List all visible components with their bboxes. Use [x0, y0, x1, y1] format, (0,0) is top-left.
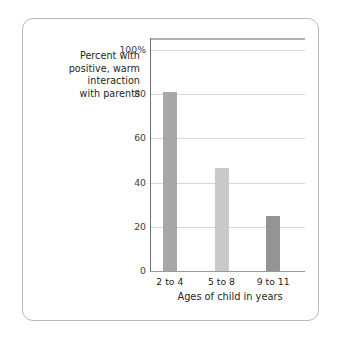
- y-axis-tick-labels: 100% 80 60 40 20 0: [108, 38, 146, 278]
- y-tick-label-100: 100%: [119, 45, 146, 55]
- y-tick-label-20: 20: [134, 222, 146, 232]
- y-tick-label-40: 40: [134, 178, 146, 188]
- x-axis-title: Ages of child in years: [140, 291, 320, 302]
- bar-5-to-8[interactable]: [215, 168, 229, 271]
- bar-9-to-11[interactable]: [266, 216, 280, 271]
- y-axis-spine: [150, 38, 151, 272]
- x-tick-label-9-to-11: 9 to 11: [247, 276, 299, 287]
- plot-top-rule: [150, 38, 305, 40]
- chart-figure: Percent with positive, warm interaction …: [0, 0, 342, 341]
- x-axis-tick-labels: 2 to 45 to 89 to 11: [150, 276, 310, 290]
- bar-2-to-4[interactable]: [163, 92, 177, 271]
- x-tick-label-2-to-4: 2 to 4: [144, 276, 196, 287]
- gridline-100: [151, 50, 305, 51]
- y-tick-label-0: 0: [140, 266, 146, 276]
- x-tick-label-5-to-8: 5 to 8: [196, 276, 248, 287]
- y-tick-label-80: 80: [134, 89, 146, 99]
- y-tick-label-60: 60: [134, 133, 146, 143]
- x-axis-spine: [150, 271, 305, 272]
- plot-area: [150, 38, 305, 272]
